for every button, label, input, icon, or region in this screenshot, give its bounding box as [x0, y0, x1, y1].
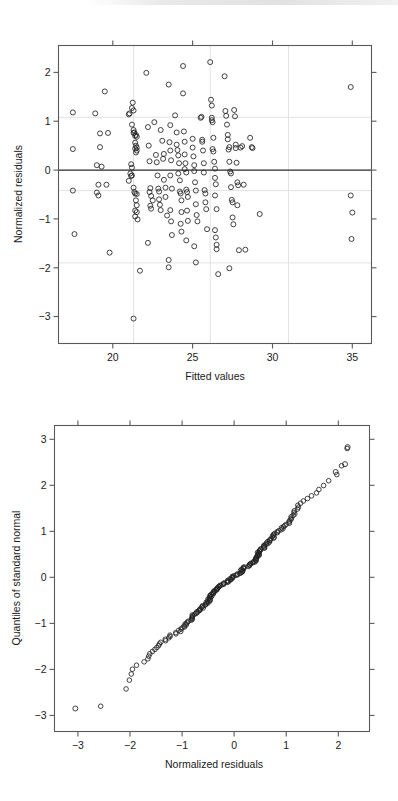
data-point	[227, 159, 232, 164]
data-point	[201, 148, 206, 153]
data-point	[213, 193, 218, 198]
data-point	[213, 182, 218, 187]
data-point	[149, 206, 154, 211]
data-point	[96, 182, 101, 187]
data-point	[146, 143, 151, 148]
y-axis-label: Normalized residuals	[12, 145, 24, 243]
x-tick-label: −2	[124, 739, 136, 751]
data-point	[185, 208, 190, 213]
data-point	[176, 153, 181, 158]
normal-qq-plot: 3210−1−2−3 −3−2−1012 Normalized residual…	[0, 400, 398, 801]
data-point	[124, 687, 129, 692]
data-point	[166, 82, 171, 87]
y-tick-label: 2	[45, 66, 51, 78]
data-point	[169, 158, 174, 163]
data-point	[222, 74, 227, 79]
data-point	[70, 110, 75, 115]
data-point	[243, 247, 248, 252]
data-point	[96, 193, 101, 198]
data-point	[193, 180, 198, 185]
data-point	[178, 221, 183, 226]
data-point	[309, 494, 314, 499]
data-point	[212, 159, 217, 164]
x-axis-ticks: −3−2−1012	[72, 421, 341, 751]
x-tick-label: 1	[283, 739, 289, 751]
data-point	[127, 678, 132, 683]
data-point	[214, 207, 219, 212]
data-point	[130, 667, 135, 672]
data-point	[157, 197, 162, 202]
y-tick-label: −2	[35, 663, 47, 675]
data-point	[106, 130, 111, 135]
data-point	[183, 161, 188, 166]
x-axis-label: Fitted values	[185, 370, 245, 382]
data-point	[232, 107, 237, 112]
x-tick-label: 20	[107, 351, 119, 363]
data-point	[201, 161, 206, 166]
data-point	[166, 265, 171, 270]
data-point	[190, 145, 195, 150]
data-point	[167, 140, 172, 145]
data-point	[98, 131, 103, 136]
data-point	[129, 672, 134, 677]
data-point	[146, 657, 151, 662]
x-tick-label: −1	[176, 739, 188, 751]
data-point	[133, 198, 138, 203]
data-point	[232, 114, 237, 119]
data-point	[203, 200, 208, 205]
data-point	[179, 229, 184, 234]
data-point	[163, 185, 168, 190]
x-axis-ticks: 20253035	[107, 41, 358, 363]
y-tick-label: 1	[41, 525, 47, 537]
data-point	[326, 478, 331, 483]
data-point	[104, 182, 109, 187]
data-point	[181, 129, 186, 134]
y-tick-label: 1	[45, 115, 51, 127]
data-point	[228, 185, 233, 190]
data-point	[223, 108, 228, 113]
data-point	[348, 193, 353, 198]
data-point	[72, 232, 77, 237]
data-point	[169, 233, 174, 238]
data-point	[204, 207, 209, 212]
data-point	[192, 163, 197, 168]
data-point	[177, 161, 182, 166]
data-point	[349, 236, 354, 241]
data-point	[231, 222, 236, 227]
y-tick-label: −1	[35, 617, 47, 629]
data-point	[233, 146, 238, 151]
data-point	[94, 163, 99, 168]
y-tick-label: −3	[39, 310, 51, 322]
data-point	[158, 128, 163, 133]
residuals-vs-fitted-figure: 210−1−2−3 20253035 Fitted values Normali…	[0, 0, 398, 400]
data-point	[157, 189, 162, 194]
data-point	[144, 70, 149, 75]
x-axis-label: Normalized residuals	[165, 758, 263, 770]
data-point	[163, 194, 168, 199]
data-point	[165, 213, 170, 218]
outlier-point	[73, 706, 78, 711]
data-point	[137, 268, 142, 273]
data-point	[161, 177, 166, 182]
data-point	[195, 219, 200, 224]
data-point	[194, 213, 199, 218]
data-point	[107, 250, 112, 255]
data-point	[98, 145, 103, 150]
x-tick-label: 35	[346, 351, 358, 363]
data-point	[152, 120, 157, 125]
data-point	[234, 160, 239, 165]
data-point	[153, 152, 158, 157]
data-point	[161, 151, 166, 156]
data-point	[211, 135, 216, 140]
y-tick-label: −3	[35, 709, 47, 721]
data-point	[176, 171, 181, 176]
data-point	[184, 238, 189, 243]
data-point	[213, 235, 218, 240]
data-point	[129, 162, 134, 167]
data-point	[126, 178, 131, 183]
data-point	[155, 173, 160, 178]
y-axis-ticks: 3210−1−2−3	[35, 433, 375, 721]
y-axis-label: Quantiles of standard normal	[10, 511, 22, 646]
data-point	[230, 215, 235, 220]
y-tick-label: −2	[39, 262, 51, 274]
